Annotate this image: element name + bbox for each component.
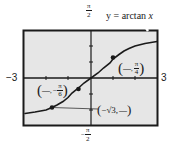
annotation-pi-4: ( — , π 4 ) xyxy=(118,60,144,77)
y-max-num: π xyxy=(86,3,92,11)
point-neg-root3 xyxy=(50,105,55,110)
graph-title: y = arctan x xyxy=(106,11,153,21)
point-neg-pi-6 xyxy=(76,87,81,92)
y-max-den: 2 xyxy=(87,11,91,19)
title-lhs: y = arctan xyxy=(106,10,149,21)
y-max-label: π 2 xyxy=(86,3,92,19)
x-max-label: 3 xyxy=(161,73,167,83)
y-min-label: − π 2 xyxy=(81,127,91,143)
x-min-label: −3 xyxy=(6,73,17,83)
point-pi-4 xyxy=(111,55,116,60)
title-var: x xyxy=(149,10,153,21)
y-min-den: 2 xyxy=(86,135,90,143)
annotation-neg-root3: ( −√3 , — ) xyxy=(97,102,131,118)
plot-canvas xyxy=(0,0,173,146)
y-min-num: π xyxy=(85,127,91,135)
annotation-neg-pi-6: ( — , − π 6 ) xyxy=(37,82,68,99)
